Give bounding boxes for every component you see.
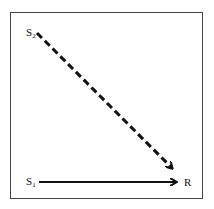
node-s2: S2: [26, 27, 36, 40]
node-s1: S1: [26, 176, 36, 189]
dashed-edge-s2-r: [37, 33, 172, 168]
node-r: R: [184, 177, 191, 188]
